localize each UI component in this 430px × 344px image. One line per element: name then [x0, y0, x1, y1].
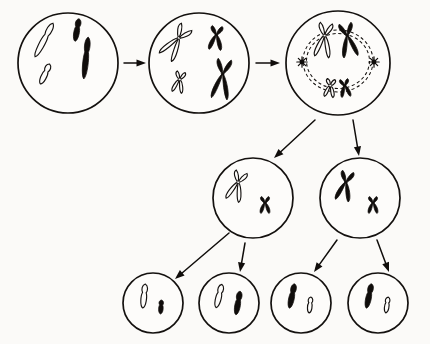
cell-membrane-outline [149, 13, 249, 113]
arrow-head-icon [271, 59, 281, 66]
cell-1 [18, 13, 118, 113]
arrow-cell1-to-cell2 [124, 59, 146, 66]
cell-7 [199, 273, 259, 333]
cell-9 [348, 273, 408, 333]
arrow-shaft [279, 120, 315, 153]
centromere [343, 84, 346, 87]
centromere [346, 34, 349, 37]
arrow-cell5-to-cell9 [377, 240, 389, 272]
gamete-row [123, 273, 408, 333]
centromere [329, 84, 332, 87]
arrow-head-icon [354, 146, 361, 156]
arrow-cell3-to-cell4 [274, 120, 315, 158]
cells-layer [18, 11, 408, 333]
cell-6 [123, 273, 183, 333]
cell-3 [286, 11, 390, 115]
cell-2 [149, 13, 249, 113]
cell-8 [271, 273, 331, 333]
arrow-cell4-to-cell7 [238, 243, 245, 272]
arrow-head-icon [238, 262, 245, 272]
cell-membrane-outline [320, 158, 400, 238]
centromere [215, 34, 218, 37]
meiosis-figure-canvas [0, 0, 430, 344]
centromere [264, 202, 267, 204]
cell-membrane-outline [123, 273, 183, 333]
parent-row [18, 11, 390, 115]
cell-membrane-outline [18, 13, 118, 113]
arrow-head-icon [382, 262, 389, 272]
arrow-shaft [353, 120, 358, 149]
centrosome-right [369, 57, 379, 67]
arrow-cell4-to-cell6 [175, 233, 229, 279]
centromere [372, 202, 375, 204]
cell-5 [320, 158, 400, 238]
arrow-shaft [180, 233, 229, 274]
arrow-cell5-to-cell8 [314, 240, 337, 272]
arrow-cell3-to-cell5 [353, 120, 361, 156]
arrow-head-icon [314, 262, 322, 272]
arrow-cell2-to-cell3 [256, 59, 280, 66]
centromere [221, 73, 224, 76]
centrosome-left [297, 57, 307, 67]
cell-membrane-outline [199, 273, 259, 333]
arrow-shaft [377, 240, 387, 265]
cell-membrane-outline [348, 273, 408, 333]
cell-4 [213, 158, 293, 238]
centromere [323, 34, 326, 37]
arrow-shaft [318, 240, 337, 266]
cell-membrane-outline [271, 273, 331, 333]
arrow-head-icon [137, 59, 147, 66]
cell-membrane-outline [213, 158, 293, 238]
daughter-row [213, 158, 400, 238]
arrow-shaft [241, 243, 245, 265]
meiosis-diagram [0, 0, 430, 344]
